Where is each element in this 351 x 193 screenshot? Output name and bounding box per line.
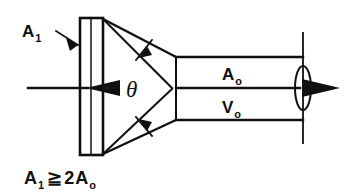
caption-relation: ≧ (47, 168, 62, 188)
caption-lhs-subscript: 1 (38, 179, 44, 191)
figure-root: A1 θ Ao Vo A1≧2Ao (0, 0, 351, 193)
outlet-area-subscript: o (235, 75, 242, 87)
caption-coefficient: 2 (64, 168, 74, 188)
outlet-area-symbol: A (222, 65, 234, 84)
diffuser-diagram: A1 θ Ao Vo A1≧2Ao (0, 0, 351, 193)
caption-rhs-subscript: o (89, 179, 96, 191)
caption-inequality: A1≧2Ao (24, 168, 96, 191)
inlet-area-subscript: 1 (35, 32, 41, 44)
caption-rhs-symbol: A (75, 168, 88, 188)
caption-lhs-symbol: A (24, 168, 37, 188)
cone-angle-label: θ (126, 77, 137, 102)
outlet-velocity-subscript: o (234, 108, 241, 120)
inlet-area-symbol: A (22, 22, 34, 41)
outlet-velocity-symbol: V (222, 98, 234, 117)
